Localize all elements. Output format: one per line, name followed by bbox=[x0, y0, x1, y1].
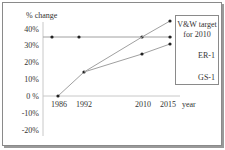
x-axis-label: year bbox=[182, 100, 196, 109]
y-axis-label: % change bbox=[26, 11, 58, 20]
y-tick: -20% bbox=[22, 126, 40, 135]
x-tick: 1986 bbox=[51, 100, 67, 109]
y-tick: 10% bbox=[24, 75, 39, 84]
y-tick: 30% bbox=[24, 41, 39, 50]
series-er-1 bbox=[56, 19, 171, 97]
legend-item-vw-target: V&W target bbox=[177, 20, 217, 29]
y-tick: 40% bbox=[24, 25, 39, 34]
y-tick: -10% bbox=[22, 109, 40, 118]
legend-item-gs-1: GS-1 bbox=[198, 73, 215, 82]
line-chart: % change 40% 30% 20% 10% 0 % -10% -20% 1… bbox=[0, 0, 225, 150]
legend-item-vw-target-line2: for 2010 bbox=[183, 30, 210, 39]
x-tick: 1992 bbox=[76, 100, 92, 109]
series-vw-target bbox=[43, 35, 172, 38]
series-gs-1 bbox=[84, 42, 172, 72]
legend-item-er-1: ER-1 bbox=[198, 51, 215, 60]
x-tick: 2010 bbox=[135, 100, 151, 109]
y-tick: 0 % bbox=[26, 92, 39, 101]
y-tick: 20% bbox=[24, 58, 39, 67]
legend: V&W target for 2010 ER-1 GS-1 bbox=[176, 16, 219, 85]
x-tick: 2015 bbox=[160, 100, 176, 109]
